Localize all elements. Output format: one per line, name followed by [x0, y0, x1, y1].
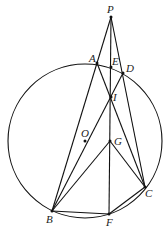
label-O: O [81, 127, 89, 139]
segments [52, 17, 145, 214]
label-G: G [114, 135, 122, 147]
point-O [84, 140, 87, 143]
label-F: F [105, 216, 113, 228]
segment-PF [109, 17, 111, 214]
point-P [110, 16, 113, 19]
point-A [96, 62, 99, 65]
point-G [109, 140, 112, 143]
label-I: I [112, 91, 118, 103]
label-P: P [106, 3, 114, 15]
label-C: C [145, 187, 153, 199]
label-E: E [111, 55, 119, 67]
segment-GC [110, 141, 145, 187]
segment-FC [109, 187, 145, 214]
point-labels: PAEDIOGCBF [46, 3, 153, 228]
point-D [122, 72, 125, 75]
segment-BG [52, 141, 110, 211]
label-B: B [46, 213, 53, 225]
geometry-diagram: PAEDIOGCBF [0, 0, 167, 233]
segment-AC [97, 63, 145, 187]
label-A: A [88, 52, 96, 64]
label-D: D [125, 62, 134, 74]
